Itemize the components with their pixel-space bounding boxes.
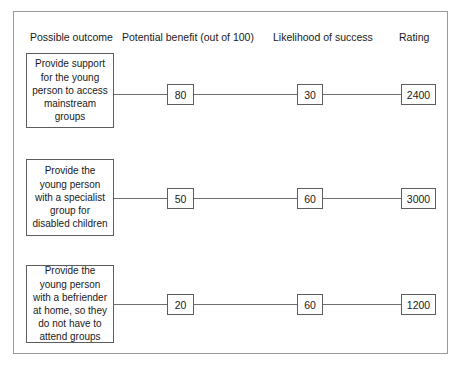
outcome-box: Provide the young person with a speciali… [26, 159, 114, 236]
benefit-value-box: 80 [167, 84, 194, 105]
column-header-likelihood-of-success: Likelihood of success [273, 31, 373, 44]
likelihood-value-box: 60 [297, 294, 323, 315]
connector-line [114, 198, 167, 199]
connector-line [194, 198, 297, 199]
likelihood-value-box: 60 [297, 188, 323, 209]
column-header-rating: Rating [399, 31, 429, 44]
column-header-possible-outcome: Possible outcome [30, 31, 113, 44]
rating-value-box: 2400 [401, 84, 436, 105]
column-header-potential-benefit: Potential benefit (out of 100) [122, 31, 254, 44]
likelihood-value-box: 30 [297, 84, 323, 105]
connector-line [194, 94, 297, 95]
connector-line [323, 198, 401, 199]
connector-line [323, 304, 401, 305]
connector-line [323, 94, 401, 95]
connector-line [114, 304, 167, 305]
outcome-box: Provide support for the young person to … [26, 53, 114, 128]
rating-value-box: 1200 [401, 294, 436, 315]
connector-line [114, 94, 167, 95]
outcome-box: Provide the young person with a befriend… [26, 265, 114, 343]
rating-value-box: 3000 [401, 188, 436, 209]
decision-matrix-frame: Possible outcome Potential benefit (out … [13, 11, 448, 354]
benefit-value-box: 20 [167, 294, 194, 315]
benefit-value-box: 50 [167, 188, 194, 209]
connector-line [194, 304, 297, 305]
